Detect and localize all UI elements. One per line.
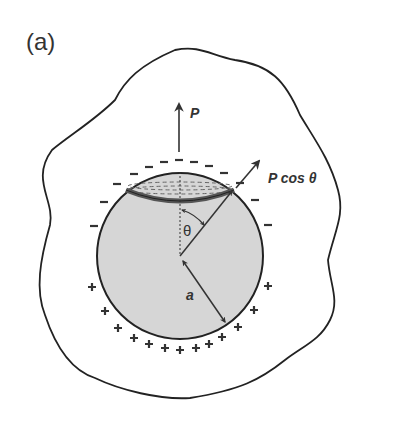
- radius-label: a: [186, 287, 194, 303]
- angle-label: θ: [183, 222, 191, 239]
- force-label: P: [190, 105, 200, 121]
- panel-label: (a): [26, 28, 55, 55]
- dipole-sphere-diagram: (a) P P cos θ θ a: [0, 0, 395, 429]
- force-component-label: P cos θ: [268, 170, 317, 186]
